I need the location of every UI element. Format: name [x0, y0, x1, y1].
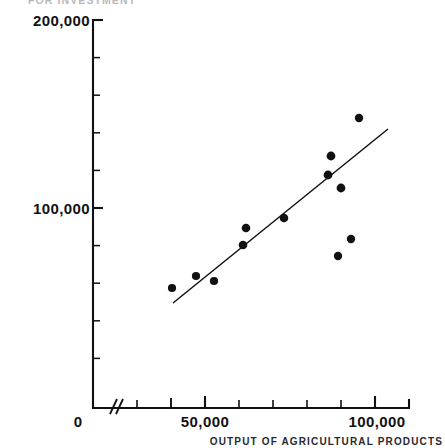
x-axis-title: OUTPUT OF AGRICULTURAL PRODUCTS — [210, 436, 443, 447]
data-point — [337, 184, 346, 193]
data-point — [327, 152, 336, 161]
data-point — [210, 277, 218, 285]
y-axis-group — [93, 19, 103, 409]
data-point — [347, 235, 355, 243]
plot-canvas — [0, 0, 445, 448]
data-point — [242, 224, 251, 233]
data-point — [239, 241, 248, 250]
data-point — [324, 171, 333, 180]
x-axis-label-50000: 50,000 — [181, 413, 229, 430]
origin-label-zero: 0 — [74, 413, 83, 430]
data-point — [355, 114, 363, 122]
scatter-plot-figure: FOR INVESTMENT — [0, 0, 445, 448]
y-axis-label-200000: 200,000 — [33, 12, 90, 29]
data-point — [334, 252, 342, 260]
data-point — [280, 214, 289, 223]
y-axis-label-100000: 100,000 — [33, 200, 90, 217]
x-axis-group — [92, 396, 410, 414]
data-point-series — [168, 114, 363, 292]
data-point — [192, 272, 200, 280]
x-axis-label-100000: 100,000 — [348, 413, 405, 430]
data-point — [168, 284, 176, 292]
axis-break-icon — [110, 399, 123, 414]
